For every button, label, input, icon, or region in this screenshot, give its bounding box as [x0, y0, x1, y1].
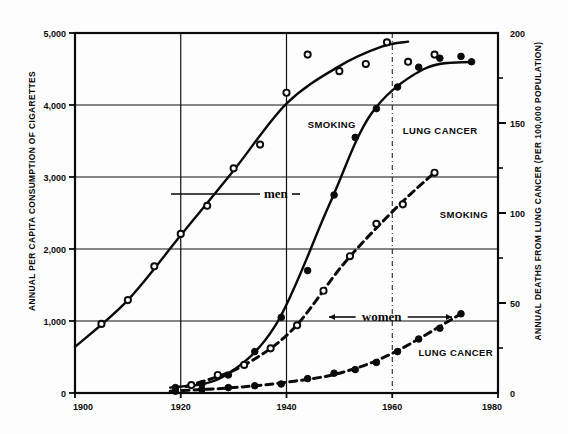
- data-point-filled: [458, 311, 465, 318]
- data-series: [75, 39, 475, 394]
- data-point-filled: [199, 386, 206, 393]
- data-point-open: [405, 59, 411, 65]
- data-point-open: [257, 142, 263, 148]
- smoking-men-label: SMOKING: [308, 119, 356, 130]
- women-bracket: women: [329, 309, 452, 324]
- data-point-open: [384, 39, 390, 45]
- series-men-smoking: [75, 39, 438, 347]
- data-point-open: [363, 61, 369, 67]
- data-point-filled: [415, 64, 422, 71]
- men-bracket-text: men: [264, 186, 289, 201]
- data-point-filled: [373, 359, 380, 366]
- y-tick-label-left: 4,000: [43, 101, 66, 111]
- x-tick-label: 1900: [73, 402, 93, 412]
- data-point-filled: [304, 267, 311, 274]
- data-point-filled: [437, 55, 444, 62]
- series-line: [170, 314, 461, 391]
- data-point-filled: [394, 348, 401, 355]
- data-point-open: [231, 165, 237, 171]
- series-line: [170, 62, 471, 388]
- x-tick-label: 1940: [276, 402, 296, 412]
- data-point-open: [373, 221, 379, 227]
- data-point-open: [268, 345, 274, 351]
- data-point-open: [400, 201, 406, 207]
- data-point-filled: [437, 325, 444, 332]
- data-point-open: [188, 382, 194, 388]
- y-tick-label-left: 0: [61, 389, 66, 399]
- data-point-open: [347, 253, 353, 259]
- data-point-filled: [373, 105, 380, 112]
- data-point-open: [204, 203, 210, 209]
- data-point-open: [294, 322, 300, 328]
- data-point-open: [151, 263, 157, 269]
- data-point-filled: [394, 84, 401, 91]
- lung-cancer-men-label: LUNG CANCER: [403, 125, 478, 136]
- y-tick-label-right: 100: [510, 209, 525, 219]
- x-tick-label: 1920: [171, 402, 191, 412]
- x-tick-label: 1960: [382, 402, 402, 412]
- data-point-open: [98, 321, 104, 327]
- data-point-open: [125, 297, 131, 303]
- x-tick-label: 1980: [482, 402, 502, 412]
- data-point-filled: [331, 370, 338, 377]
- data-point-filled: [458, 53, 465, 60]
- data-point-open: [431, 170, 437, 176]
- data-point-filled: [468, 59, 475, 66]
- men-bracket: men: [171, 186, 300, 201]
- data-point-filled: [278, 314, 285, 321]
- data-point-filled: [251, 348, 258, 355]
- data-point-open: [305, 52, 311, 58]
- lung-cancer-women-label: LUNG CANCER: [418, 347, 493, 358]
- data-point-filled: [225, 384, 232, 391]
- y-tick-label-left: 3,000: [43, 173, 66, 183]
- data-point-filled: [352, 366, 359, 373]
- data-point-filled: [251, 383, 258, 390]
- chart-plot-area: menwomen 01,0002,0003,0004,0005,00005010…: [0, 0, 568, 434]
- data-point-open: [178, 231, 184, 237]
- y-tick-label-left: 1,000: [43, 317, 66, 327]
- data-point-filled: [172, 388, 179, 395]
- smoking-women-label: SMOKING: [440, 209, 488, 220]
- women-bracket-text: women: [362, 309, 402, 324]
- series-women-smoking: [186, 170, 438, 389]
- data-point-filled: [331, 192, 338, 199]
- women-bracket-arrow-left: [329, 314, 335, 320]
- y-tick-label-right: 200: [510, 29, 525, 39]
- data-point-filled: [278, 381, 285, 388]
- y-tick-label-right: 50: [510, 299, 520, 309]
- data-point-filled: [415, 336, 422, 343]
- data-point-open: [241, 362, 247, 368]
- lung-cancer-smoking-chart: ANNUAL PER CAPITA CONSUMPTION OF CIGARET…: [0, 0, 568, 434]
- group-brackets: menwomen: [171, 186, 452, 324]
- data-point-open: [320, 288, 326, 294]
- y-tick-label-left: 5,000: [43, 29, 66, 39]
- y-tick-label-right: 150: [510, 119, 525, 129]
- data-point-filled: [304, 375, 311, 382]
- data-point-open: [215, 372, 221, 378]
- y-tick-label-right: 0: [510, 389, 515, 399]
- data-point-open: [336, 68, 342, 74]
- gridlines: [75, 33, 498, 393]
- y-tick-label-left: 2,000: [43, 245, 66, 255]
- data-point-open: [283, 90, 289, 96]
- data-point-filled: [352, 134, 359, 141]
- series-men-lung-cancer: [170, 53, 475, 391]
